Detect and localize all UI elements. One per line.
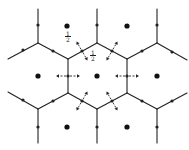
arrowhead-icon (76, 41, 79, 44)
edge-midpoint-dot (21, 98, 24, 101)
edge-midpoint-dot (95, 125, 98, 128)
dashed-arrow-shaft (113, 103, 117, 109)
edge-midpoint-dot (170, 99, 173, 102)
denominator: 2 (89, 56, 97, 61)
denominator: 2 (64, 37, 72, 42)
edge-midpoint-dot (95, 23, 98, 26)
lattice-site-dot (64, 23, 69, 28)
edge-midpoint-dot (110, 99, 113, 102)
lattice-site-dot (64, 124, 69, 129)
arrowhead-icon (84, 57, 87, 60)
arrowhead-icon (115, 74, 118, 78)
edge-midpoint-dot (21, 48, 24, 51)
edge-midpoint-dot (51, 99, 54, 102)
arrowhead-icon (114, 107, 117, 110)
dashed-arrow-shaft (78, 103, 82, 109)
edge-midpoint-dot (140, 49, 143, 52)
edge-midpoint-dot (155, 125, 158, 128)
arrowhead-icon (84, 91, 87, 94)
arrowhead-icon (77, 74, 80, 78)
edge-midpoint-dot (80, 49, 83, 52)
edge-midpoint-dot (66, 74, 69, 77)
edge-midpoint-dot (140, 99, 143, 102)
edge-midpoint-dot (125, 74, 128, 77)
arrowhead-icon (106, 91, 109, 94)
dashed-arrow-shaft (83, 53, 87, 59)
lattice-site-dot (154, 73, 159, 78)
dashed-arrow-shaft (108, 93, 112, 99)
dashed-arrow-shaft (78, 43, 82, 49)
hexagonal-cell-diagram (0, 0, 189, 150)
arrowhead-icon (56, 74, 59, 78)
dashed-arrow-shaft (108, 53, 112, 59)
lattice-site-dot (94, 73, 99, 78)
fraction-label-half-edge: 1 2 (89, 50, 97, 61)
edge-midpoint-dot (170, 50, 173, 53)
edge-midpoint-dot (51, 49, 54, 52)
lattice-site-dot (124, 124, 129, 129)
lattice-site-dot (35, 73, 40, 78)
edge-midpoint-dot (80, 99, 83, 102)
arrowhead-icon (114, 41, 117, 44)
fraction-label-half-top: 1 2 (64, 31, 72, 42)
dashed-arrow-shaft (113, 43, 117, 49)
edge-midpoint-dot (36, 125, 39, 128)
arrowhead-icon (76, 107, 79, 110)
edge-midpoint-dot (110, 49, 113, 52)
edge-midpoint-dot (155, 23, 158, 26)
edge-midpoint-dot (36, 23, 39, 26)
arrowhead-icon (136, 74, 139, 78)
dashed-arrow-shaft (83, 93, 87, 99)
arrowhead-icon (106, 57, 109, 60)
lattice-site-dot (124, 23, 129, 28)
